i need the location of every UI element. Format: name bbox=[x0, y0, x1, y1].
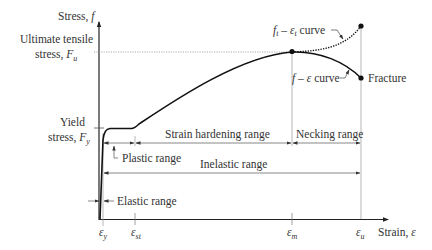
epsilon-y-label: εy bbox=[99, 226, 108, 241]
fracture-label: Fracture bbox=[368, 72, 406, 84]
epsilon-st-label: εst bbox=[131, 226, 142, 241]
stress-strain-diagram: Stress, f Ultimate tensile stress, Fu Yi… bbox=[0, 0, 432, 250]
plastic-leader bbox=[114, 146, 118, 158]
necking-label: Necking range bbox=[296, 128, 363, 141]
ultimate-point bbox=[289, 49, 294, 54]
eng-curve-label: f – ε curve bbox=[292, 72, 340, 85]
fracture-point bbox=[358, 75, 363, 80]
true-fracture-point bbox=[358, 23, 363, 28]
yield-stress-label-2: stress, Fy bbox=[48, 131, 90, 146]
strain-hardening-label: Strain hardening range bbox=[165, 128, 270, 141]
y-axis-label: Stress, f bbox=[58, 10, 96, 23]
plastic-label: Plastic range bbox=[122, 152, 181, 165]
true-curve-leader bbox=[331, 30, 343, 39]
yield-stress-label-1: Yield bbox=[60, 116, 85, 128]
inelastic-label: Inelastic range bbox=[200, 158, 267, 171]
elastic-label: Elastic range bbox=[117, 195, 177, 208]
epsilon-m-label: εm bbox=[287, 226, 298, 241]
ultimate-stress-label-2: stress, Fu bbox=[35, 48, 77, 63]
epsilon-u-label: εu bbox=[356, 226, 365, 241]
eng-curve-leader bbox=[340, 70, 349, 78]
x-axis-label: Strain, ε bbox=[378, 226, 416, 239]
ultimate-stress-label-1: Ultimate tensile bbox=[20, 33, 93, 45]
true-curve-label: ft – εt curve bbox=[273, 24, 325, 38]
